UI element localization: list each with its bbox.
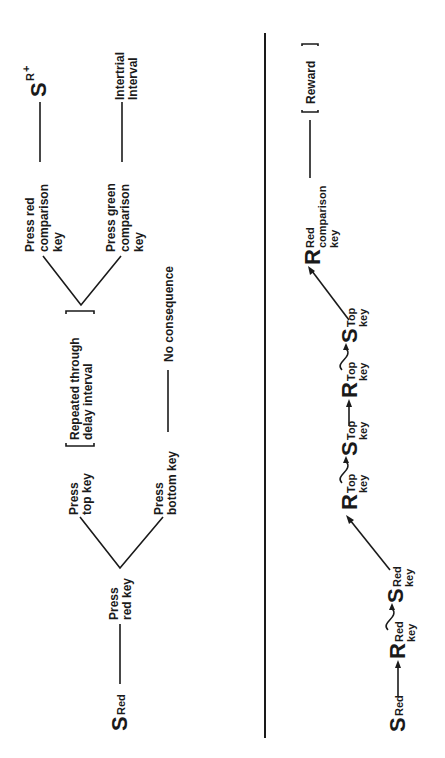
intertrial-interval-label: Intertrial Interval	[113, 52, 140, 100]
chain-node-s-top-key: S Top key	[337, 307, 369, 343]
svg-text:key: key	[403, 568, 415, 587]
svg-text:No consequence: No consequence	[162, 266, 176, 362]
svg-text:comparison: comparison	[37, 184, 51, 252]
no-consequence-label: No consequence	[162, 266, 176, 362]
svg-text:+: +	[20, 66, 32, 72]
arrowhead	[343, 343, 349, 350]
chain-node-r-red-key: R Red key	[385, 621, 417, 659]
svg-text:S: S	[26, 82, 51, 97]
chain-node-r-top-key: R Top key	[337, 473, 369, 510]
press-red-key-label: Press red key	[107, 578, 134, 620]
positive-reinforcer: S R +	[20, 66, 51, 97]
svg-text:Intertrial: Intertrial	[113, 52, 127, 100]
svg-text:S: S	[385, 717, 410, 732]
behavior-chain-diagram: S Red Press red key Press top key Press …	[0, 0, 445, 758]
arrow-line	[312, 271, 349, 320]
svg-text:Top: Top	[345, 473, 357, 493]
svg-text:key: key	[357, 362, 369, 381]
svg-text:key: key	[357, 308, 369, 327]
svg-text:R: R	[385, 643, 410, 659]
svg-text:Press green: Press green	[104, 183, 118, 252]
arrowhead	[395, 660, 401, 668]
svg-text:comparison: comparison	[118, 184, 132, 252]
svg-text:red key: red key	[120, 578, 134, 620]
top-start-stimulus: S Red	[107, 694, 132, 731]
svg-text:bottom key: bottom key	[165, 451, 179, 515]
reward-label: Reward	[304, 61, 318, 104]
press-top-key-label: Press top key	[67, 473, 94, 515]
svg-text:top key: top key	[80, 473, 94, 515]
svg-text:Red: Red	[115, 694, 127, 715]
svg-text:R: R	[300, 249, 325, 265]
chain-node-s-red: S Red	[385, 695, 410, 732]
fork-line	[43, 256, 121, 305]
svg-text:Press: Press	[152, 482, 166, 515]
svg-text:Press red: Press red	[23, 197, 37, 252]
svg-text:Red: Red	[304, 227, 316, 248]
svg-text:key: key	[405, 623, 417, 642]
svg-text:Interval: Interval	[126, 57, 140, 100]
svg-text:Press: Press	[67, 482, 81, 515]
svg-text:Top: Top	[345, 361, 357, 381]
chain-node-r-red-comparison-key: R Red comparison key	[300, 185, 340, 265]
svg-text:key: key	[357, 474, 369, 493]
svg-text:comparison: comparison	[316, 185, 328, 248]
svg-text:key: key	[51, 232, 65, 252]
repeat-note-label: Repeated through delay interval	[68, 337, 95, 440]
svg-text:S: S	[337, 441, 362, 456]
svg-text:key: key	[328, 229, 340, 248]
svg-text:Red: Red	[393, 695, 405, 716]
svg-text:Press: Press	[107, 587, 121, 620]
press-bottom-key-label: Press bottom key	[152, 451, 179, 515]
arrowhead	[346, 399, 352, 407]
svg-text:Repeated through: Repeated through	[68, 337, 82, 440]
svg-text:S: S	[383, 588, 408, 603]
svg-text:S: S	[337, 328, 362, 343]
svg-text:key: key	[132, 232, 146, 252]
fork-line	[80, 517, 163, 568]
svg-text:R: R	[24, 73, 36, 81]
svg-text:key: key	[357, 421, 369, 440]
chain-node-r-top-key: R Top key	[337, 361, 369, 398]
arrowhead	[343, 456, 349, 463]
svg-text:Reward: Reward	[304, 61, 318, 104]
svg-text:Red: Red	[391, 566, 403, 587]
press-green-comparison-label: Press green comparison key	[104, 183, 146, 252]
svg-text:S: S	[107, 716, 132, 731]
arrowhead	[389, 603, 395, 610]
svg-text:Top: Top	[345, 420, 357, 440]
arrow-line	[350, 520, 390, 570]
chain-node-s-top-key: S Top key	[337, 420, 369, 456]
svg-text:delay interval: delay interval	[81, 363, 95, 440]
press-red-comparison-label: Press red comparison key	[23, 184, 65, 252]
chain-node-s-red-key: S Red key	[383, 566, 415, 603]
svg-text:R: R	[337, 494, 362, 510]
svg-text:R: R	[337, 382, 362, 398]
svg-text:Red: Red	[393, 621, 405, 642]
